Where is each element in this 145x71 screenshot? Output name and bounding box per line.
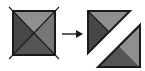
dissection-diagram: [0, 0, 145, 71]
source-square: [9, 7, 59, 59]
right-arrow-icon: [62, 30, 83, 38]
arrow-head: [76, 30, 83, 38]
result-figure: [88, 11, 140, 67]
figure-container: [0, 0, 145, 71]
